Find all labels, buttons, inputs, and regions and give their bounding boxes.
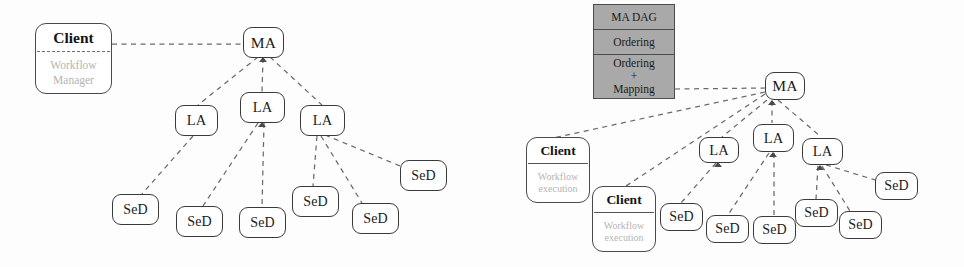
edge-la3-sed6 [826, 165, 882, 182]
edge-ma-la2 [262, 58, 263, 92]
sed-node-6[interactable]: SeD [875, 172, 918, 200]
client-2-subtitle-line1: Workflow [604, 220, 644, 233]
edge-la1-sed1 [142, 136, 193, 194]
arrowhead-la2 [769, 152, 777, 157]
client-node-2[interactable]: Client Workflow execution [592, 186, 656, 252]
client-2-subtitle: Workflow execution [593, 213, 655, 251]
client-title: Client [36, 24, 111, 51]
ordering-row-label: Ordering [613, 36, 655, 49]
client-2-title: Client [593, 187, 655, 212]
sed-node-1[interactable]: SeD [112, 194, 159, 225]
la-node-3[interactable]: LA [300, 105, 345, 136]
edge-la2-sed3 [262, 123, 264, 207]
ma-node[interactable]: MA [243, 27, 284, 58]
client-1-subtitle-line1: Workflow [538, 171, 578, 184]
la-node-1[interactable]: LA [175, 105, 218, 136]
client-node-1[interactable]: Client Workflow execution [526, 137, 590, 203]
ma-dag-row: MA DAG [594, 5, 674, 29]
sed-node-3[interactable]: SeD [753, 216, 796, 244]
sed-node-4[interactable]: SeD [292, 186, 339, 217]
left-diagram-panel: Client Workflow Manager MA LA LA LA SeD … [0, 0, 482, 267]
edge-la2-sed2 [728, 153, 769, 215]
la-node-3[interactable]: LA [802, 138, 843, 165]
edge-la1-sed1 [681, 163, 716, 203]
ordering-mapping-plus: + [631, 70, 638, 83]
ordering-row: Ordering [594, 29, 674, 54]
sed-node-2[interactable]: SeD [706, 215, 749, 243]
la-node-2[interactable]: LA [240, 92, 285, 123]
edge-dagbox-ma [675, 88, 765, 89]
sed-node-6[interactable]: SeD [400, 160, 447, 191]
sed-node-2[interactable]: SeD [176, 206, 223, 237]
edge-ma-client2 [626, 94, 765, 186]
edge-la3-sed4 [313, 136, 317, 186]
arrowhead-ma [768, 100, 776, 105]
edge-la3-sed4 [816, 166, 818, 199]
client-subtitle: Workflow Manager [36, 52, 111, 93]
sed-node-5[interactable]: SeD [352, 203, 399, 234]
client-1-subtitle: Workflow execution [527, 164, 589, 202]
ma-dag-row-label: MA DAG [611, 11, 657, 24]
client-1-subtitle-line2: execution [539, 183, 578, 196]
right-diagram-panel: MA DAG Ordering Ordering + Mapping Clien… [482, 0, 964, 267]
ordering-mapping-row: Ordering + Mapping [594, 54, 674, 98]
ma-dag-stack-box[interactable]: MA DAG Ordering Ordering + Mapping [593, 4, 675, 99]
ordering-mapping-line1: Ordering [613, 57, 655, 70]
sed-node-5[interactable]: SeD [839, 211, 882, 239]
sed-node-1[interactable]: SeD [660, 203, 703, 231]
figure-canvas: Client Workflow Manager MA LA LA LA SeD … [0, 0, 964, 267]
ordering-mapping-line2: Mapping [613, 83, 655, 96]
sed-node-4[interactable]: SeD [795, 199, 838, 227]
client-1-title: Client [527, 138, 589, 163]
sed-node-3[interactable]: SeD [239, 207, 286, 238]
client-subtitle-line2: Manager [53, 73, 94, 87]
ma-node[interactable]: MA [765, 72, 805, 100]
la-node-2[interactable]: LA [753, 124, 794, 152]
la-node-1[interactable]: LA [699, 137, 739, 163]
client-subtitle-line1: Workflow [50, 58, 96, 72]
client-2-subtitle-line2: execution [605, 232, 644, 245]
client-node-workflow-manager[interactable]: Client Workflow Manager [35, 23, 112, 94]
